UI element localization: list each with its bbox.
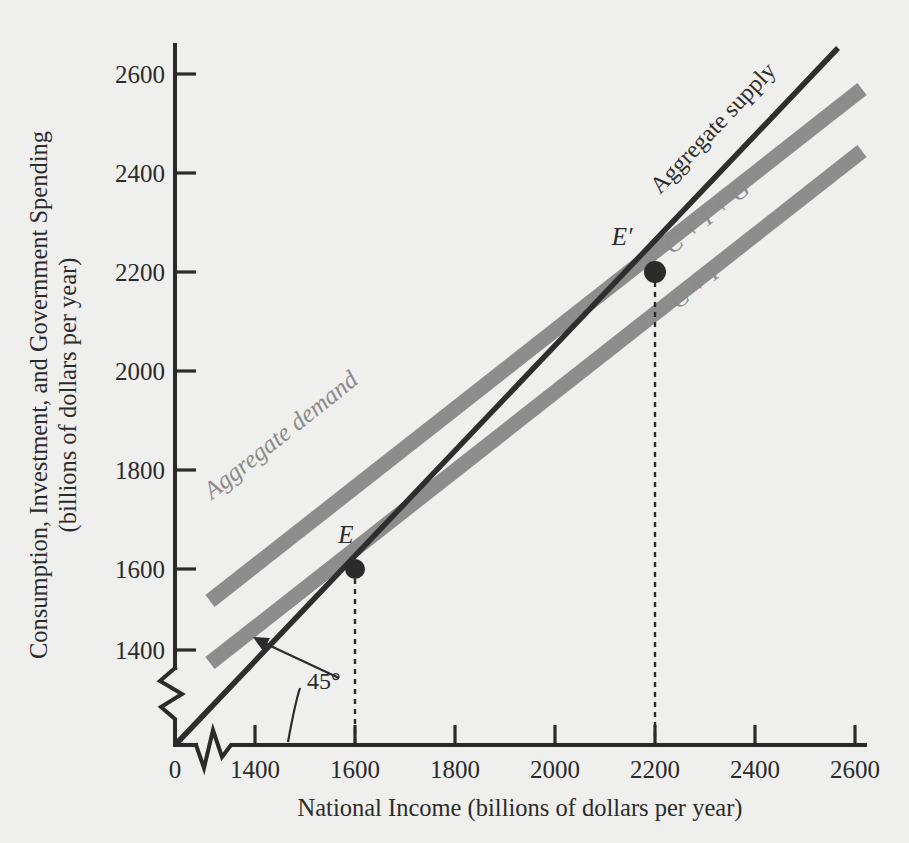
y-axis-break-zigzag xyxy=(160,668,182,745)
y-tick-label-2200: 2200 xyxy=(115,259,165,286)
equilibrium-point-e-prime xyxy=(644,261,666,283)
x-tick-label-1800: 1800 xyxy=(430,756,480,783)
x-tick-label-2600: 2600 xyxy=(830,756,880,783)
y-tick-label-2000: 2000 xyxy=(115,358,165,385)
origin-label: 0 xyxy=(169,756,182,783)
x-tick-label-2000: 2000 xyxy=(530,756,580,783)
series-aggregate-supply-line xyxy=(177,48,838,743)
angle-callout-leader-line xyxy=(288,688,300,742)
angle-label-45-degrees: 45° xyxy=(307,668,341,694)
curve-label-aggregate-demand: Aggregate demand xyxy=(197,365,363,505)
series-c-i-g-band xyxy=(210,89,862,601)
x-tick-label-1600: 1600 xyxy=(330,756,380,783)
y-tick-label-2600: 2600 xyxy=(115,61,165,88)
equilibrium-point-e xyxy=(345,559,365,579)
y-tick-label-2400: 2400 xyxy=(115,160,165,187)
y-tick-label-1800: 1800 xyxy=(115,457,165,484)
x-tick-label-2400: 2400 xyxy=(730,756,780,783)
x-tick-label-2200: 2200 xyxy=(630,756,680,783)
figure-container: 2600 2400 2200 2000 1800 1600 1400 1400 … xyxy=(0,0,909,843)
equilibrium-label-e-prime: E′ xyxy=(611,223,633,250)
y-axis-title-line1: Consumption, Investment, and Government … xyxy=(25,131,52,659)
y-tick-label-1600: 1600 xyxy=(115,556,165,583)
y-axis-title-line2: (billions of dollars per year) xyxy=(54,258,82,533)
x-axis-title: National Income (billions of dollars per… xyxy=(298,794,743,822)
y-tick-label-1400: 1400 xyxy=(115,637,165,664)
equilibrium-label-e: E xyxy=(337,521,353,548)
x-tick-label-1400: 1400 xyxy=(230,756,280,783)
chart-canvas: 2600 2400 2200 2000 1800 1600 1400 1400 … xyxy=(0,0,909,843)
